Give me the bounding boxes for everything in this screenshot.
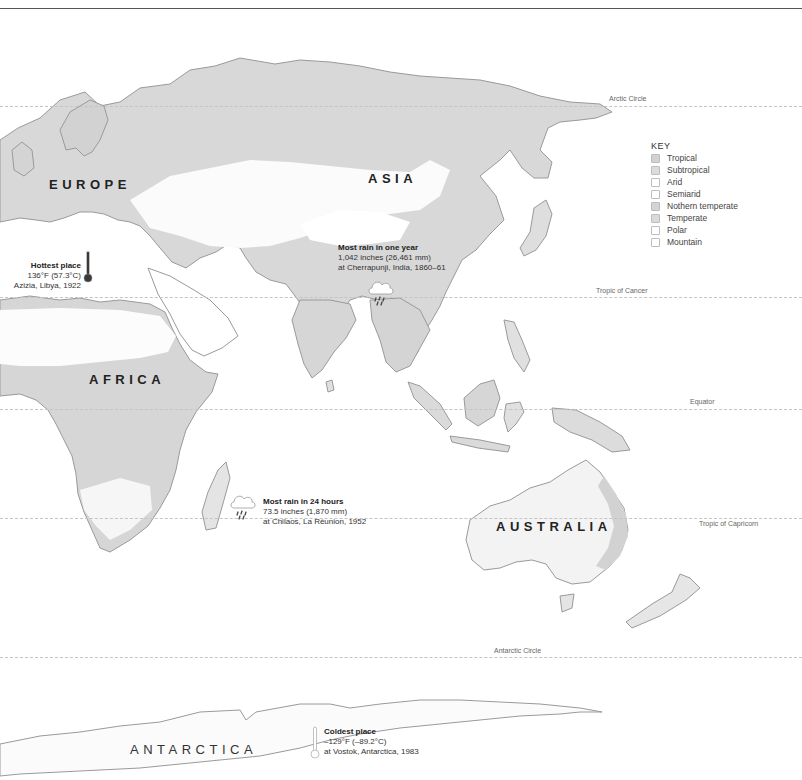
swatch-northern-temperate bbox=[651, 202, 660, 211]
landmass-tasmania bbox=[560, 594, 574, 612]
swatch-tropical bbox=[651, 154, 660, 163]
landmass-sri-lanka bbox=[326, 380, 334, 392]
record-coldest-place: Coldest place –129°F (–89.2°C) at Vostok… bbox=[324, 727, 419, 757]
landmass-india bbox=[292, 300, 356, 378]
swatch-polar bbox=[651, 226, 660, 235]
tropic-of-capricorn-line bbox=[0, 518, 802, 519]
record-title: Hottest place bbox=[14, 261, 81, 271]
antarctic-circle-line bbox=[0, 657, 802, 658]
record-value: 136°F (57.3°C) bbox=[14, 271, 81, 281]
key-label: Tropical bbox=[667, 153, 697, 163]
record-title: Most rain in one year bbox=[338, 243, 446, 253]
swatch-semiarid bbox=[651, 190, 660, 199]
swatch-subtropical bbox=[651, 166, 660, 175]
key-item-northern-temperate: Nothern temperate bbox=[651, 200, 738, 212]
continent-label-australia: AUSTRALIA bbox=[496, 519, 612, 534]
record-location: Azizia, Libya, 1922 bbox=[14, 281, 81, 291]
landmass-sumatra bbox=[408, 382, 452, 430]
key-item-subtropical: Subtropical bbox=[651, 164, 738, 176]
record-location: at Chilaos, La Réunion, 1952 bbox=[263, 517, 366, 527]
key-label: Polar bbox=[667, 225, 687, 235]
key-label: Temperate bbox=[667, 213, 707, 223]
key-item-arid: Arid bbox=[651, 176, 738, 188]
landmass-madagascar bbox=[202, 462, 230, 530]
key-item-mountain: Mountain bbox=[651, 236, 738, 248]
thermometer-cold-icon bbox=[310, 726, 320, 760]
key-item-tropical: Tropical bbox=[651, 152, 738, 164]
record-value: –129°F (–89.2°C) bbox=[324, 737, 419, 747]
key-item-polar: Polar bbox=[651, 224, 738, 236]
arctic-circle-label: Arctic Circle bbox=[609, 95, 646, 102]
continent-label-asia: ASIA bbox=[368, 171, 417, 186]
tropic-of-cancer-label: Tropic of Cancer bbox=[596, 287, 647, 294]
continent-label-antarctica: ANTARCTICA bbox=[130, 742, 257, 757]
key-label: Arid bbox=[667, 177, 682, 187]
record-value: 1,042 inches (26,461 mm) bbox=[338, 253, 446, 263]
key-item-temperate: Temperate bbox=[651, 212, 738, 224]
swatch-arid bbox=[651, 178, 660, 187]
continent-label-europe: EUROPE bbox=[49, 177, 131, 192]
record-value: 73.5 inches (1,870 mm) bbox=[263, 507, 366, 517]
landmass-philippines bbox=[504, 320, 530, 372]
map-key: KEY Tropical Subtropical Arid Semiarid N… bbox=[651, 141, 738, 248]
equator-label: Equator bbox=[690, 398, 715, 405]
landmass-new-guinea bbox=[552, 408, 630, 452]
tropic-of-cancer-line bbox=[0, 297, 802, 298]
record-location: at Vostok, Antarctica, 1983 bbox=[324, 747, 419, 757]
landmass-new-zealand bbox=[626, 574, 700, 628]
record-most-rain-year: Most rain in one year 1,042 inches (26,4… bbox=[338, 243, 446, 273]
record-location: at Cherrapunji, India, 1860–61 bbox=[338, 263, 446, 273]
landmass-antarctica bbox=[0, 700, 602, 776]
arctic-circle-line bbox=[0, 106, 802, 107]
antarctic-circle-label: Antarctic Circle bbox=[494, 647, 541, 654]
rain-cloud-icon bbox=[367, 278, 395, 308]
landmass-sulawesi bbox=[504, 402, 524, 432]
key-label: Subtropical bbox=[667, 165, 710, 175]
landmass-java bbox=[450, 436, 510, 452]
tropic-of-capricorn-label: Tropic of Capricorn bbox=[699, 520, 758, 527]
rain-cloud-icon bbox=[229, 492, 257, 522]
record-most-rain-24h: Most rain in 24 hours 73.5 inches (1,870… bbox=[263, 497, 366, 527]
swatch-mountain bbox=[651, 238, 660, 247]
record-title: Most rain in 24 hours bbox=[263, 497, 366, 507]
key-label: Semiarid bbox=[667, 189, 701, 199]
key-title: KEY bbox=[651, 141, 738, 151]
key-item-semiarid: Semiarid bbox=[651, 188, 738, 200]
world-map bbox=[0, 0, 802, 780]
equator-line bbox=[0, 409, 802, 410]
key-label: Nothern temperate bbox=[667, 201, 738, 211]
record-hottest-place: Hottest place 136°F (57.3°C) Azizia, Lib… bbox=[14, 261, 81, 291]
key-label: Mountain bbox=[667, 237, 702, 247]
swatch-temperate bbox=[651, 214, 660, 223]
landmass-borneo bbox=[464, 380, 500, 426]
record-title: Coldest place bbox=[324, 727, 419, 737]
continent-label-africa: AFRICA bbox=[89, 372, 165, 387]
thermometer-hot-icon bbox=[83, 250, 93, 284]
landmass-japan bbox=[520, 200, 552, 256]
